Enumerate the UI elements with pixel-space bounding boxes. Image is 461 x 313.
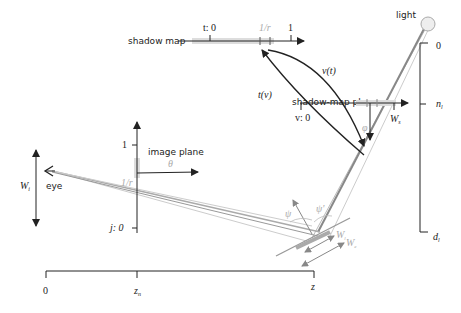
image-plane: 1 j: 0 1/r θ image plane — [108, 122, 204, 233]
image-plane-bottom-label: j: 0 — [108, 222, 124, 233]
ws-label: Ws — [390, 113, 401, 125]
t-one-label: 1 — [288, 22, 293, 33]
eye-rays — [52, 171, 320, 242]
eye: eye Wi — [20, 150, 63, 226]
light-label: light — [396, 10, 416, 20]
depth-axis: 0 zn z — [43, 271, 315, 297]
light-source: light — [396, 10, 435, 31]
shadow-map-diagram: shadow map t: 0 1/r 1 v(t) t(v) shadow-m… — [0, 0, 461, 313]
phi-label: φ — [362, 122, 368, 133]
shadow-map-label: shadow map — [128, 36, 186, 46]
t-of-v-label: t(v) — [258, 89, 273, 101]
psi-label: ψ — [285, 208, 292, 219]
depth-origin-label: 0 — [43, 285, 48, 296]
shadow-map: shadow map t: 0 1/r 1 — [128, 22, 304, 46]
surface: ψ ψ' Wl We — [276, 200, 357, 266]
psi-prime-label: ψ' — [316, 203, 325, 214]
image-one-over-r-label: 1/r — [121, 177, 133, 188]
shadow-map-plane: shadow-map plane v: 0 Ws φ — [292, 97, 408, 140]
z-label: z — [310, 281, 315, 292]
image-plane-label: image plane — [148, 147, 204, 157]
v-of-t-label: v(t) — [322, 65, 337, 77]
scale-nl-label: nl — [436, 98, 443, 110]
theta-label: θ — [168, 158, 173, 169]
zn-label: zn — [133, 285, 141, 297]
wi-label: Wi — [20, 180, 30, 192]
wl-label: Wl — [336, 229, 346, 241]
scale-dl-label: dl — [433, 231, 440, 243]
light-depth-scale: 0 nl dl — [420, 40, 443, 243]
scale-zero-label: 0 — [436, 40, 441, 51]
eye-label: eye — [46, 181, 63, 191]
image-plane-top-label: 1 — [122, 139, 127, 150]
light-rays — [312, 24, 430, 238]
one-over-r-label: 1/r — [259, 22, 271, 33]
t-zero-label: t: 0 — [203, 22, 216, 33]
we-label: We — [346, 237, 357, 249]
v-zero-label: v: 0 — [295, 112, 310, 123]
